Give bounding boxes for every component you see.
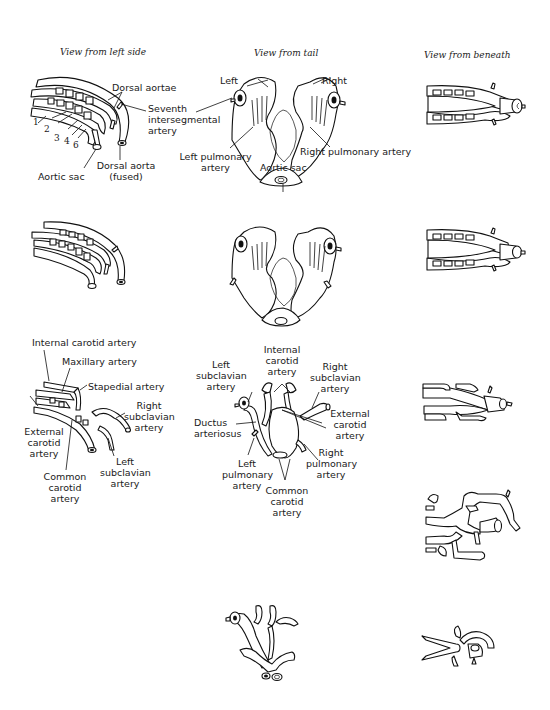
label-external-carotid-artery: External carotid artery — [24, 426, 64, 459]
row4-beneath-figure — [426, 490, 520, 560]
row2-left-side-figure — [32, 222, 125, 289]
label-common-carotid-artery-tail: Common carotid artery — [264, 485, 310, 518]
arch-number-4: 4 — [64, 136, 70, 146]
label-dorsal-aorta-fused: Dorsal aorta (fused) — [96, 160, 156, 182]
label-seventh-intersegmental-artery: Seventh intersegmental artery — [148, 103, 220, 136]
row1-beneath-figure — [427, 83, 525, 125]
label-right-pulmonary-artery-tail: Right pulmonary artery — [306, 447, 356, 480]
label-internal-carotid-artery-tail: Internal carotid artery — [262, 344, 302, 377]
label-right-subclavian-artery-tail: Right subclavian artery — [310, 361, 360, 394]
label-left-subclavian-artery-tail: Left subclavian artery — [196, 359, 246, 392]
row5-figure — [226, 606, 298, 681]
row5-beneath-figure — [422, 626, 494, 666]
label-right-pulmonary-artery: Right pulmonary artery — [300, 146, 411, 157]
arch-number-2: 2 — [44, 124, 50, 134]
label-left-pulmonary-artery: Left pulmonary artery — [178, 151, 253, 173]
label-aortic-sac-tail: Aortic sac — [260, 162, 307, 173]
label-right-subclavian-artery: Right subclavian artery — [124, 400, 174, 433]
label-left: Left — [220, 75, 238, 86]
label-left-subclavian-artery: Left subclavian artery — [100, 456, 150, 489]
label-internal-carotid-artery: Internal carotid artery — [32, 337, 136, 348]
row3-beneath-figure — [423, 384, 512, 421]
label-external-carotid-artery-tail: External carotid artery — [330, 408, 370, 441]
arch-number-6: 6 — [73, 140, 79, 150]
row2-tail-figure — [230, 227, 341, 326]
label-right: Right — [322, 75, 347, 86]
arch-number-1: 1 — [33, 117, 39, 127]
row2-beneath-figure — [427, 228, 525, 271]
arch-number-3: 3 — [54, 133, 60, 143]
label-aortic-sac-left: Aortic sac — [38, 171, 85, 182]
label-common-carotid-artery: Common carotid artery — [40, 471, 90, 504]
label-ductus-arteriosus: Ductus arteriosus — [194, 417, 242, 439]
label-maxillary-artery: Maxillary artery — [62, 356, 137, 367]
label-dorsal-aortae: Dorsal aortae — [112, 82, 176, 93]
label-stapedial-artery: Stapedial artery — [88, 381, 164, 392]
